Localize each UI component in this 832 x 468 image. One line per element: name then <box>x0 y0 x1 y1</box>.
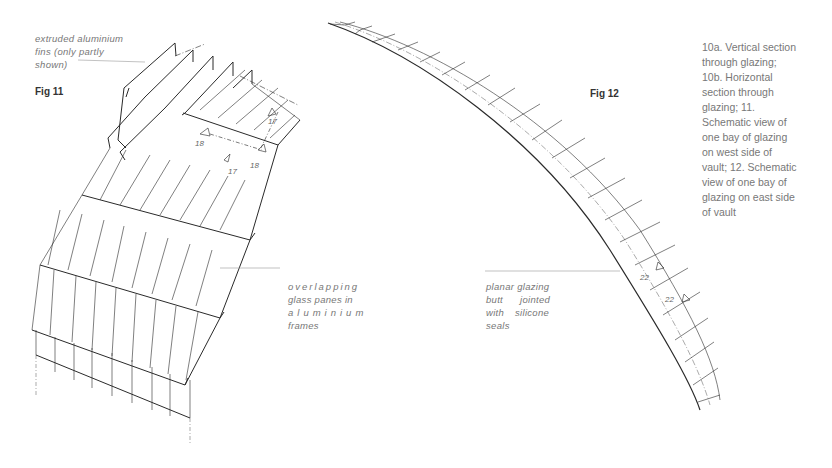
panes-annotation-line-2: glass panes in <box>288 293 368 306</box>
fig11-tier-1 <box>175 44 300 145</box>
dim-18a: 18 <box>195 139 204 148</box>
fig12-arc <box>328 22 720 410</box>
dim-22a: 22 <box>639 273 649 282</box>
fins-annotation-line-1: extruded aluminium <box>35 32 123 45</box>
fins-annotation-line-2: fins (only partly <box>35 45 123 58</box>
dim-18b: 18 <box>250 161 259 170</box>
fig11-fins <box>108 43 252 160</box>
glazing-annotation: planar glazing butt jointed with silicon… <box>486 280 556 332</box>
fins-annotation: extruded aluminium fins (only partly sho… <box>35 32 123 71</box>
glazing-annotation-line-2: butt jointed <box>486 293 556 306</box>
figure-caption: 10a. Vertical section through glazing; 1… <box>702 40 798 220</box>
glazing-annotation-line-4: seals <box>486 319 556 332</box>
dim-17b: 17 <box>228 167 237 176</box>
fig11-tier-3 <box>40 195 250 318</box>
dim-22b: 22 <box>664 295 674 304</box>
fig12-title: Fig 12 <box>590 88 619 99</box>
dim-17a: 17 <box>268 117 277 126</box>
fig11-title: Fig 11 <box>35 86 63 97</box>
dimension-texts: 17 18 18 17 22 22 <box>195 117 674 304</box>
panes-annotation-line-1: overlapping <box>288 280 368 293</box>
panes-annotation-line-4: frames <box>288 319 368 332</box>
glazing-annotation-line-3: with silicone <box>486 306 556 319</box>
glazing-annotation-line-1: planar glazing <box>486 280 556 293</box>
panes-annotation-line-3: aluminium <box>288 306 368 319</box>
fig11-tier-5 <box>36 330 190 445</box>
fig11-dimension-arrows <box>200 108 278 162</box>
fig11-tier-4 <box>32 265 220 385</box>
fig11-tier-2 <box>82 145 278 240</box>
fins-annotation-line-3: shown) <box>35 58 123 71</box>
panes-annotation: overlapping glass panes in aluminium fra… <box>288 280 368 332</box>
